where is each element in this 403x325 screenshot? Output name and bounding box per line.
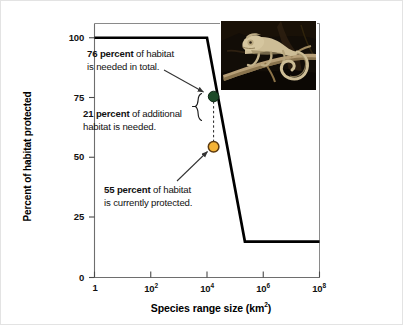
x-axis-ticks [95, 272, 320, 278]
y-axis-ticks [89, 38, 95, 278]
y-tick-label-50: 50 [58, 151, 84, 162]
annotation-total-needed: 76 percent of habitat is needed in total… [87, 48, 174, 73]
x-tick-label-1e8: 108 [304, 282, 334, 294]
y-tick-label-100: 100 [58, 32, 84, 43]
annotation-value-76: 76 percent [87, 48, 134, 59]
x-tick-exponent: 6 [266, 282, 269, 289]
x-tick-text: 10 [200, 283, 210, 294]
x-tick-label-1e4: 104 [192, 282, 222, 294]
x-tick-text: 1 [92, 282, 97, 293]
arrow-to-orange-point [177, 152, 208, 182]
data-point-total-needed [208, 91, 219, 102]
annotation-line2-55: is currently protected. [104, 197, 192, 210]
x-tick-label-1e6: 106 [248, 282, 278, 294]
x-axis-title-text: Species range size (km [151, 302, 264, 314]
figure-container: 100 75 50 25 0 1 102 104 106 108 Percent… [0, 0, 403, 325]
annotation-line2-21: habitat is needed. [83, 121, 182, 134]
x-tick-exponent: 2 [154, 282, 157, 289]
x-tick-exponent: 8 [322, 282, 325, 289]
y-axis-title: Percent of habitat protected [22, 77, 33, 237]
x-axis-title: Species range size (km2) [61, 301, 361, 314]
x-tick-exponent: 4 [210, 282, 213, 289]
chameleon-photo [220, 20, 317, 91]
annotation-value-21: 21 percent [83, 108, 130, 119]
annotation-currently-protected: 55 percent of habitat is currently prote… [104, 184, 192, 209]
x-tick-label-1: 1 [80, 282, 110, 293]
annotation-text-21: of additional [130, 108, 182, 119]
x-tick-text: 10 [256, 283, 266, 294]
x-tick-text: 10 [144, 283, 154, 294]
x-tick-label-1e2: 102 [136, 282, 166, 294]
curly-brace-icon [193, 94, 202, 121]
y-tick-label-75: 75 [58, 92, 84, 103]
annotation-additional-needed: 21 percent of additional habitat is need… [83, 108, 182, 133]
x-tick-text: 10 [312, 283, 322, 294]
annotation-text-76: of habitat [134, 48, 175, 59]
y-tick-label-25: 25 [58, 211, 84, 222]
x-axis-title-tail: ) [268, 302, 271, 314]
data-point-currently-protected [208, 142, 219, 153]
annotation-line2-76: is needed in total. [87, 61, 174, 74]
annotation-text-55: of habitat [151, 184, 192, 195]
annotation-value-55: 55 percent [104, 184, 151, 195]
